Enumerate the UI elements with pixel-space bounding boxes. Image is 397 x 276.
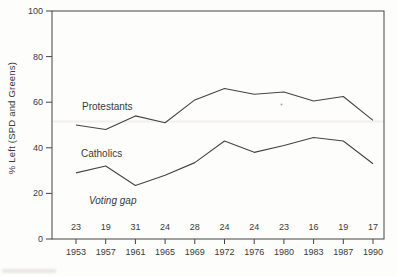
x-tick-label: 1990	[363, 247, 383, 257]
y-axis-title: % Left (SPD and Greens)	[6, 62, 17, 174]
x-tick-label: 1957	[96, 247, 116, 257]
scan-speck	[281, 104, 283, 106]
x-tick-label: 1953	[66, 247, 86, 257]
series-label-protestants: Protestants	[82, 101, 133, 112]
voting-gap-label: Voting gap	[89, 195, 136, 206]
voting-gap-value: 24	[249, 222, 259, 232]
voting-gap-value: 17	[368, 222, 378, 232]
voting-gap-value: 16	[309, 222, 319, 232]
y-tick-label: 60	[33, 97, 43, 107]
voting-gap-value: 19	[338, 222, 348, 232]
x-tick-label: 1983	[304, 247, 324, 257]
voting-gap-value: 24	[160, 222, 170, 232]
y-tick-label: 80	[33, 52, 43, 62]
voting-gap-value: 23	[71, 222, 81, 232]
x-tick-label: 1980	[274, 247, 294, 257]
y-tick-label: 0	[38, 234, 43, 244]
voting-gap-value: 31	[130, 222, 140, 232]
x-tick-label: 1965	[155, 247, 175, 257]
x-tick-label: 1976	[244, 247, 264, 257]
x-tick-label: 1969	[185, 247, 205, 257]
y-tick-label: 40	[33, 143, 43, 153]
series-label-catholics: Catholics	[81, 148, 122, 159]
y-tick-label: 100	[28, 6, 43, 16]
voting-gap-value: 19	[101, 222, 111, 232]
voting-gap-value: 28	[190, 222, 200, 232]
voting-gap-value: 24	[219, 222, 229, 232]
voting-gap-value: 23	[279, 222, 289, 232]
series-line-catholics	[76, 138, 373, 186]
x-tick-label: 1972	[214, 247, 234, 257]
line-chart-canvas: 0204060801001953231957191961311965241969…	[0, 0, 397, 276]
y-tick-label: 20	[33, 188, 43, 198]
chart-figure: 0204060801001953231957191961311965241969…	[0, 0, 397, 276]
x-tick-label: 1961	[125, 247, 145, 257]
x-tick-label: 1987	[333, 247, 353, 257]
caption-smudge	[2, 269, 56, 273]
